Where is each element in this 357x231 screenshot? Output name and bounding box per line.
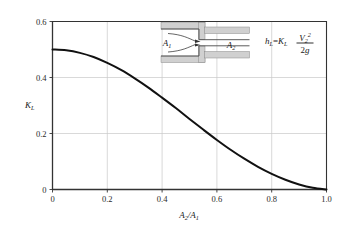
inset-step-upper	[199, 23, 206, 40]
y-axis-title-subscript: L	[30, 104, 35, 111]
y-tick-label: 0.4	[36, 73, 47, 83]
inset-lower-wall-small	[205, 52, 250, 59]
y-tick-label: 0.6	[36, 17, 47, 27]
svg-text:A2/A1: A2/A1	[178, 210, 199, 221]
x-axis-title: A2/A1	[178, 210, 199, 221]
equation-velocity-superscript: 2	[308, 31, 311, 38]
x-tick-label: 0.2	[102, 194, 113, 204]
x-tick-label: 1.0	[321, 194, 332, 204]
loss-coefficient-chart: 00.20.40.60.81.0 00.20.40.6 KL A2/A1	[0, 0, 357, 231]
inset-step-lower	[199, 46, 206, 63]
inset-upper-wall-small	[205, 27, 250, 34]
x-tick-label: 0.6	[212, 194, 223, 204]
inset-label-a2-subscript: 2	[232, 44, 235, 51]
equation-k-subscript: L	[283, 40, 288, 47]
equation-gravity: g	[305, 45, 310, 55]
x-tick-label: 0	[50, 194, 54, 204]
x-axis-title-denominator-subscript: 1	[196, 214, 199, 221]
x-tick-label: 0.4	[157, 194, 168, 204]
x-tick-label: 0.8	[266, 194, 277, 204]
y-tick-label: 0	[42, 185, 46, 195]
y-tick-label: 0.2	[36, 129, 47, 139]
equation-denominator: 2g	[301, 45, 311, 55]
inset-label-a1-subscript: 1	[168, 42, 171, 49]
